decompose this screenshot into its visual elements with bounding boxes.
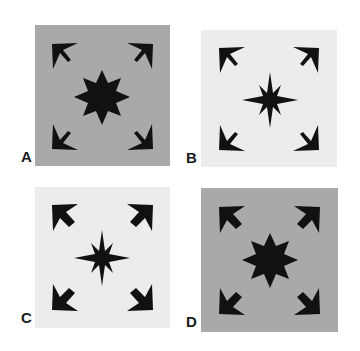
panel-c-graphic [35, 187, 170, 328]
panel-b-graphic [201, 30, 337, 167]
panel-label-c: C [21, 310, 32, 325]
panel-a [35, 25, 170, 166]
panel-d-graphic [201, 188, 338, 332]
panel-b [201, 30, 337, 167]
panel-c [35, 187, 170, 328]
panel-a-graphic [35, 25, 170, 166]
panel-d [201, 188, 338, 332]
panel-label-b: B [186, 150, 197, 165]
panel-label-a: A [21, 149, 32, 164]
panel-label-d: D [186, 314, 197, 329]
